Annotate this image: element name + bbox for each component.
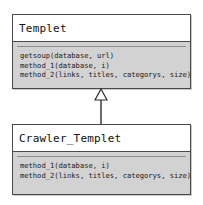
operations-list-templet: getsoup(database, url) method_1(database…: [17, 45, 186, 80]
operation-item: method_1(database, i): [20, 161, 186, 171]
class-name-crawler-templet: Crawler_Templet: [13, 125, 190, 152]
generalization-connector[interactable]: [88, 88, 114, 126]
uml-class-templet[interactable]: Templet getsoup(database, url) method_1(…: [12, 14, 191, 89]
operation-item: getsoup(database, url): [20, 51, 186, 61]
operations-compartment-crawler-templet: method_1(database, i) method_2(links, ti…: [13, 152, 190, 194]
class-name-templet: Templet: [13, 15, 190, 42]
generalization-arrow-icon: [88, 88, 114, 126]
uml-class-diagram: Templet getsoup(database, url) method_1(…: [0, 0, 203, 205]
uml-class-crawler-templet[interactable]: Crawler_Templet method_1(database, i) me…: [12, 124, 191, 195]
operation-item: method_2(links, titles, categorys, size): [20, 70, 186, 80]
operation-item: method_1(database, i): [20, 61, 186, 71]
operations-compartment-templet: getsoup(database, url) method_1(database…: [13, 42, 190, 88]
operation-item: method_2(links, titles, categorys, size): [20, 171, 186, 181]
operations-list-crawler-templet: method_1(database, i) method_2(links, ti…: [17, 155, 186, 180]
